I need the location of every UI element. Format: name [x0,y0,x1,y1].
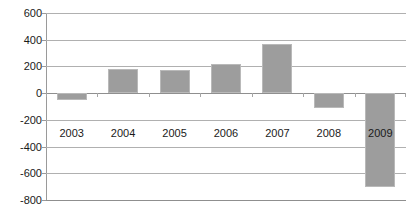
x-label-2003: 2003 [46,127,97,139]
x-label-2004: 2004 [97,127,148,139]
x-tick-mark-6 [355,93,356,97]
x-label-2007: 2007 [252,127,303,139]
bar-2006[interactable] [211,64,241,93]
bar-2007[interactable] [262,44,292,93]
bar-2005[interactable] [160,70,190,93]
y-tick-label-n400: -400 [2,142,42,153]
plot-area: 2003 2004 2005 2006 2007 2008 2009 [46,13,406,200]
x-tick-mark-7 [405,93,406,97]
y-tick-label-n600: -600 [2,168,42,179]
x-label-2008: 2008 [303,127,354,139]
bar-2003[interactable] [57,93,87,100]
x-label-2009: 2009 [355,127,406,139]
y-tick-label-200: 200 [2,61,42,72]
y-tick-label-0: 0 [2,88,42,99]
gridline-600 [46,13,406,14]
x-label-2006: 2006 [200,127,251,139]
gridline-400 [46,40,406,41]
y-tick-label-600: 600 [2,8,42,19]
x-tick-mark-4 [252,93,253,97]
y-axis-labels: 600 400 200 0 -200 -400 -600 -800 [0,0,42,218]
x-tick-mark-3 [200,93,201,97]
x-tick-mark-1 [97,93,98,97]
y-tick-label-400: 400 [2,35,42,46]
bar-2009[interactable] [365,93,395,187]
gridline-n400 [46,147,406,148]
bar-2008[interactable] [314,93,344,108]
gridline-n800 [46,200,406,201]
gridline-zero [46,93,406,94]
bar-chart: 600 400 200 0 -200 -400 -600 -800 [0,0,420,218]
gridline-n600 [46,173,406,174]
bar-2004[interactable] [108,69,138,93]
x-tick-mark-5 [303,93,304,97]
x-tick-mark-0 [46,93,47,97]
y-tick-label-n200: -200 [2,115,42,126]
x-label-2005: 2005 [149,127,200,139]
x-tick-mark-2 [149,93,150,97]
y-tick-label-n800: -800 [2,195,42,206]
gridline-n200 [46,120,406,121]
